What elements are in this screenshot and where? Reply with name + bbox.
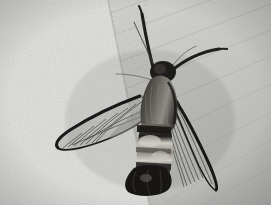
moth-photograph	[0, 0, 271, 205]
photograph-frame	[0, 0, 279, 212]
vignette-overlay	[0, 0, 271, 205]
photo-svg-canvas	[0, 0, 271, 205]
